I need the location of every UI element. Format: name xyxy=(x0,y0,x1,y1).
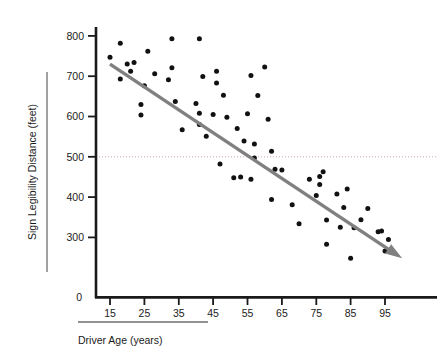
y-tick-label-600: 600 xyxy=(66,110,84,122)
data-point xyxy=(248,73,253,78)
y-tick-label-400: 400 xyxy=(66,191,84,203)
data-point xyxy=(317,174,322,179)
data-point xyxy=(365,206,370,211)
data-point xyxy=(317,182,322,187)
data-point xyxy=(255,93,260,98)
x-tick-label-45: 45 xyxy=(207,307,219,319)
data-point xyxy=(297,221,302,226)
data-point xyxy=(211,112,216,117)
data-point xyxy=(324,218,329,223)
data-point xyxy=(338,225,343,230)
data-point xyxy=(138,112,143,117)
x-axis-title: Driver Age (years) xyxy=(78,334,163,346)
data-point xyxy=(132,60,137,65)
data-point xyxy=(118,77,123,82)
x-axis-tick-labels: 15 25 35 45 55 65 75 85 95 xyxy=(104,307,391,319)
data-point xyxy=(152,71,157,76)
data-point xyxy=(334,191,339,196)
data-point xyxy=(204,134,209,139)
data-point xyxy=(358,217,363,222)
data-point xyxy=(379,228,384,233)
data-point xyxy=(221,93,226,98)
data-point xyxy=(231,175,236,180)
data-point xyxy=(348,256,353,261)
data-point xyxy=(193,101,198,106)
data-point xyxy=(218,162,223,167)
data-point xyxy=(290,202,295,207)
data-point xyxy=(224,115,229,120)
data-point xyxy=(386,237,391,242)
y-tick-label-700: 700 xyxy=(66,70,84,82)
data-point xyxy=(197,111,202,116)
y-tick-label-300: 300 xyxy=(66,231,84,243)
x-tick-label-95: 95 xyxy=(379,307,391,319)
data-point xyxy=(242,139,247,144)
data-point xyxy=(108,55,113,60)
x-tick-label-55: 55 xyxy=(242,307,254,319)
data-point xyxy=(214,81,219,86)
data-point xyxy=(341,205,346,210)
data-point xyxy=(345,187,350,192)
data-point xyxy=(262,64,267,69)
data-point xyxy=(180,127,185,132)
data-point xyxy=(321,169,326,174)
data-point xyxy=(200,74,205,79)
x-tick-label-85: 85 xyxy=(345,307,357,319)
data-point xyxy=(245,111,250,116)
data-point xyxy=(266,117,271,122)
y-axis-title: Sign Legibility Distance (feet) xyxy=(26,104,38,240)
data-point xyxy=(269,149,274,154)
data-point xyxy=(128,69,133,74)
y-tick-label-800: 800 xyxy=(66,30,84,42)
data-point xyxy=(173,99,178,104)
data-point xyxy=(125,62,130,67)
data-point xyxy=(279,168,284,173)
data-point xyxy=(314,193,319,198)
data-point xyxy=(169,36,174,41)
data-point xyxy=(197,36,202,41)
data-point xyxy=(248,177,253,182)
scatter-plot-svg: 800 700 600 500 400 300 0 15 25 35 45 xyxy=(0,0,441,360)
data-point xyxy=(118,41,123,46)
data-point xyxy=(324,242,329,247)
chart-figure: 800 700 600 500 400 300 0 15 25 35 45 xyxy=(0,0,441,360)
data-point xyxy=(252,141,257,146)
data-point xyxy=(214,69,219,74)
data-point xyxy=(138,102,143,107)
x-tick-label-25: 25 xyxy=(139,307,151,319)
x-tick-label-65: 65 xyxy=(276,307,288,319)
data-point xyxy=(169,65,174,70)
origin-zero-label: 0 xyxy=(76,291,82,303)
y-tick-label-500: 500 xyxy=(66,151,84,163)
plot-background xyxy=(0,0,441,360)
x-tick-label-35: 35 xyxy=(173,307,185,319)
data-point xyxy=(307,177,312,182)
x-tick-label-75: 75 xyxy=(310,307,322,319)
data-point xyxy=(166,77,171,82)
x-tick-label-15: 15 xyxy=(104,307,116,319)
data-point xyxy=(235,126,240,131)
data-point xyxy=(269,197,274,202)
data-point xyxy=(145,49,150,54)
data-point xyxy=(238,174,243,179)
